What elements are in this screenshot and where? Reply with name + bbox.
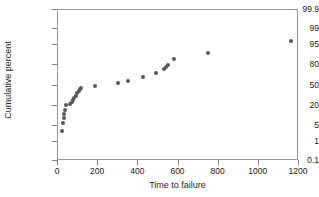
x-tick-label: 200 [90,167,104,176]
x-tick-mark [97,160,98,165]
x-tick-mark [298,160,299,165]
x-tick-label: 600 [170,167,184,176]
x-axis-ticks: 020040060080010001200 [0,0,319,197]
probability-plot-figure: Cumulative percent 0.115205080959999.9 0… [0,0,319,197]
x-tick-label: 400 [130,167,144,176]
x-tick-mark [258,160,259,165]
x-tick-label: 0 [55,167,60,176]
x-tick-mark [178,160,179,165]
x-tick-mark [57,160,58,165]
x-axis-title: Time to failure [57,180,298,190]
x-tick-label: 800 [211,167,225,176]
x-tick-mark [218,160,219,165]
x-tick-mark [137,160,138,165]
x-tick-label: 1000 [248,167,267,176]
x-tick-label: 1200 [289,167,308,176]
